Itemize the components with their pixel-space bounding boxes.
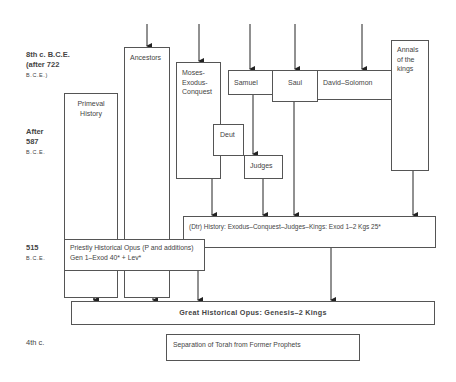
box-samuel: Samuel (228, 70, 273, 95)
box-david-solomon: David–Solomon (317, 70, 392, 100)
box-great-historical-opus: Great Historical Opus: Genesis–2 Kings (71, 301, 435, 325)
annals-label: Annals of the kings (397, 45, 418, 74)
great-opus-label: Great Historical Opus: Genesis–2 Kings (72, 308, 434, 318)
saul-label: Saul (273, 78, 317, 88)
dtr-label: (Dtr) History: Exodus–Conquest–Judges–Ki… (189, 222, 381, 232)
samuel-label: Samuel (234, 78, 258, 88)
box-annals-of-the-kings: Annals of the kings (391, 40, 429, 171)
primeval-label: Primeval History (65, 99, 117, 118)
box-moses-exodus-conquest: Moses- Exodus- Conquest (176, 62, 221, 179)
box-priestly-historical-opus: Priestly Historical Opus (P and addition… (64, 239, 205, 271)
moses-label: Moses- Exodus- Conquest (182, 68, 212, 97)
period-label-after-587: After 587 B.C.E. (26, 127, 46, 157)
period-label-4th-century: 4th c. (26, 338, 44, 348)
separation-label: Separation of Torah from Former Prophets (173, 340, 301, 350)
david-solomon-label: David–Solomon (323, 78, 372, 88)
ancestors-label: Ancestors (130, 53, 161, 63)
judges-label: Judges (250, 161, 273, 171)
box-judges: Judges (244, 155, 283, 179)
box-separation-torah-prophets: Separation of Torah from Former Prophets (166, 334, 360, 361)
box-saul: Saul (272, 70, 318, 102)
period-label-515: 515 B.C.E. (26, 243, 46, 263)
box-dtr-history: (Dtr) History: Exodus–Conquest–Judges–Ki… (183, 216, 436, 248)
period-label-8th-century: 8th c. B.C.E. (after 722 B.C.E.) (26, 50, 70, 80)
deut-label: Deut (220, 130, 235, 140)
box-deut: Deut (213, 124, 244, 156)
priestly-label: Priestly Historical Opus (P and addition… (70, 243, 193, 262)
